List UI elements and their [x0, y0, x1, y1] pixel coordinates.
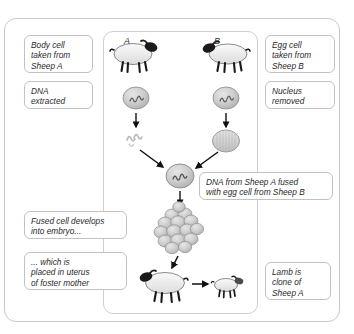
diagram-canvas: A B Body cell taken from Sheep A DNA ext… [0, 0, 354, 334]
lamb-clone-label: Lamb is clone of Sheep A [265, 262, 331, 300]
panel-letter-b: B [214, 36, 220, 46]
egg-cell-label: Egg cell taken from Sheep B [265, 35, 335, 73]
dna-fused-label: DNA from Sheep A fused with egg cell fro… [199, 172, 333, 200]
dna-extracted-label: DNA extracted [24, 81, 93, 109]
uterus-foster-mother-label: ... which is placed in uterus of foster … [24, 252, 127, 290]
panel-letter-a: A [124, 36, 130, 46]
body-cell-label: Body cell taken from Sheep A [24, 35, 93, 73]
fused-cell-embryo-label: Fused cell develops into embryo... [24, 211, 127, 239]
nucleus-removed-label: Nucleus removed [265, 81, 335, 109]
